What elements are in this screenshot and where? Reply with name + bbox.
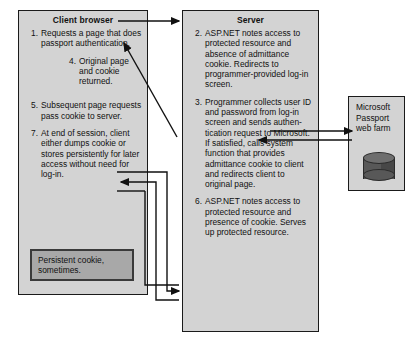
server-step-6-text: ASP.NET notes access to protected resour…	[205, 196, 306, 237]
client-step-1: 1.Requests a page that does passport aut…	[19, 28, 147, 49]
server-step-6: 6.ASP.NET notes access to protected reso…	[183, 196, 318, 237]
server-step-2-number: 2.	[189, 28, 202, 38]
server-step-6-number: 6.	[189, 196, 202, 206]
client-step-4: 4.Original page and cookie returned.	[19, 56, 147, 87]
server-step-2-text: ASP.NET notes access to protected resour…	[205, 28, 308, 89]
passport-web-farm-title: Microsoft Passport web farm	[349, 97, 404, 134]
persistent-cookie-text: Persistent cookie, sometimes.	[32, 251, 132, 276]
server-steps-list: 2.ASP.NET notes access to protected reso…	[183, 28, 318, 238]
client-step-7-text: At end of session, client either dumps c…	[41, 128, 139, 179]
client-step-7-number: 7.	[25, 128, 38, 138]
server-panel: Server 2.ASP.NET notes access to protect…	[182, 10, 319, 332]
client-step-4-number: 4.	[63, 56, 76, 66]
client-browser-title: Client browser	[19, 15, 147, 25]
diagram-canvas: Client browser 1.Requests a page that do…	[0, 0, 409, 343]
client-step-7: 7.At end of session, client either dumps…	[19, 128, 147, 179]
client-step-5-text: Subsequent page requests pass cookie to …	[41, 100, 141, 120]
cylinder-bottom-ellipse	[363, 169, 395, 181]
client-step-1-number: 1.	[25, 28, 38, 38]
client-step-4-text: Original page and cookie returned.	[79, 56, 129, 87]
server-step-3-number: 3.	[189, 97, 202, 107]
server-step-2: 2.ASP.NET notes access to protected reso…	[183, 28, 318, 90]
cylinder-top-ellipse	[363, 152, 395, 164]
persistent-cookie-callout: Persistent cookie, sometimes.	[30, 249, 134, 281]
client-steps-list: 1.Requests a page that does passport aut…	[19, 28, 147, 180]
client-step-5: 5.Subsequent page requests pass cookie t…	[19, 100, 147, 121]
server-step-3: 3.Programmer collects user ID and passwo…	[183, 97, 318, 190]
server-title: Server	[183, 15, 318, 25]
server-step-3-text: Programmer collects user ID and password…	[205, 97, 311, 189]
database-cylinder-icon	[363, 152, 395, 182]
client-step-5-number: 5.	[25, 100, 38, 110]
passport-web-farm-panel: Microsoft Passport web farm	[348, 96, 405, 191]
client-step-1-text: Requests a page that does passport authe…	[41, 28, 141, 48]
